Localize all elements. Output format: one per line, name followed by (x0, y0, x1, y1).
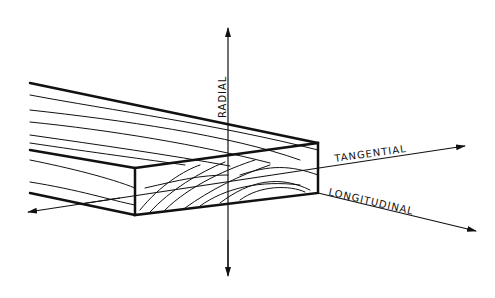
radial-label: RADIAL (217, 76, 228, 118)
longitudinal-label: LONGITUDINAL (328, 186, 415, 216)
tangential-label: TANGENTIAL (333, 143, 407, 164)
wood-board (30, 83, 318, 215)
wood-axes-diagram: RADIAL TANGENTIAL LONGITUDINAL (0, 0, 495, 298)
